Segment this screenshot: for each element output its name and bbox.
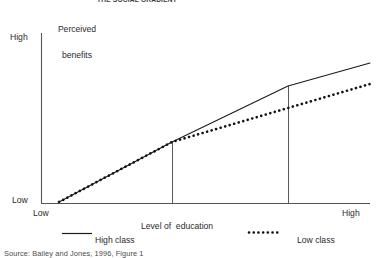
y-axis-tick-high: High [10,33,28,42]
series-low-class-line [59,84,370,202]
x-axis-tick-low: Low [33,209,49,218]
x-axis-tick-high: High [342,209,360,218]
figure-title-clipped: THE SOCIAL GRADIENT [57,0,217,3]
y-axis-title: Perceived benefits [47,8,107,77]
figure-social-gradient: THE SOCIAL GRADIENT Perceived benefits H… [0,0,378,258]
figure-caption-clipped: Source: Bailey and Jones, 1996, Figure 1 [4,249,214,258]
y-axis-title-line1: Perceived [47,25,107,34]
y-axis-tick-low: Low [12,196,28,205]
legend-label-high-class: High class [95,236,135,245]
y-axis-title-line2: benefits [47,51,107,60]
legend-label-low-class: Low class [297,236,335,245]
x-axis-title: Level of education [141,222,213,231]
series-high-class-line [59,63,370,202]
